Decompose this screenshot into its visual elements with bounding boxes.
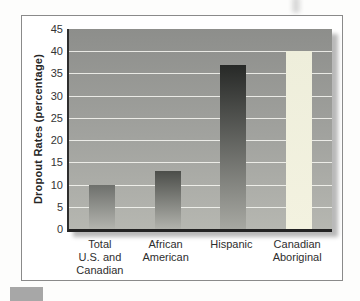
- category-label-hispanic: Hispanic: [199, 238, 265, 277]
- bar-hispanic: [220, 65, 246, 229]
- bar-total-us-and-canadian: [89, 185, 115, 229]
- bar-african-american: [155, 171, 181, 229]
- page-corner-tab: [10, 287, 43, 301]
- x-axis-labels: Total U.S. and Canadian African American…: [67, 238, 330, 277]
- category-label-african-american: African American: [133, 238, 199, 277]
- category-label-total-us-and-canadian: Total U.S. and Canadian: [67, 238, 133, 277]
- y-axis-tick-labels: 45 40 35 30 25 20 15 10 5 0: [22, 29, 63, 229]
- bar-canadian-aboriginal: [286, 51, 312, 229]
- plot-area: [67, 29, 332, 232]
- print-smudge: [292, 0, 300, 13]
- chart-frame: Dropout Rates (percentage) 45 40 35 30 2…: [21, 15, 343, 281]
- category-label-canadian-aboriginal: Canadian Aboriginal: [264, 238, 330, 277]
